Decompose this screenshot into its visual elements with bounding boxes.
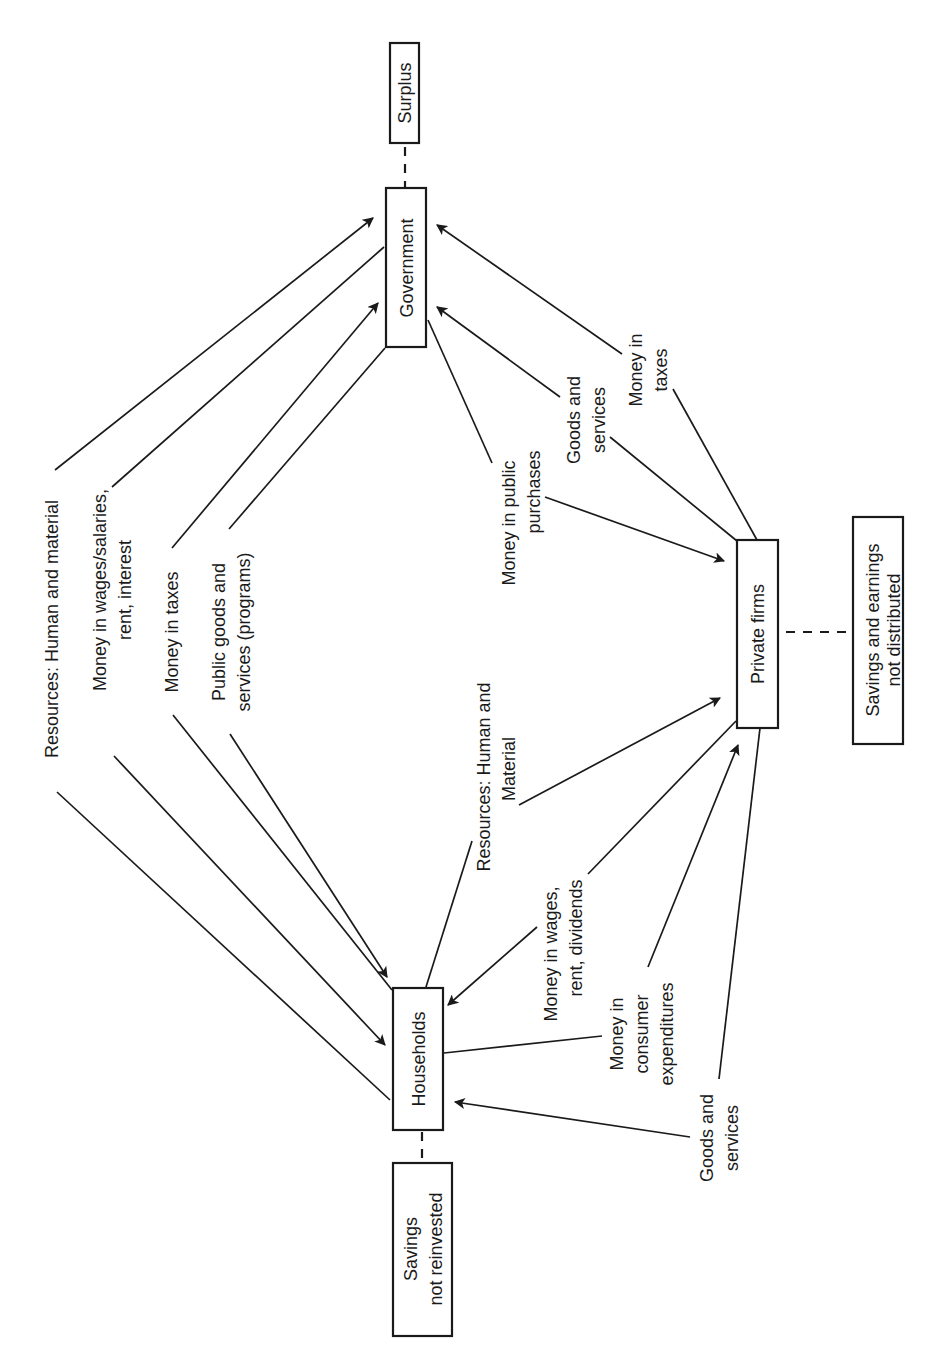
firm-taxes-label-line-1: Money in — [626, 333, 646, 406]
firm-taxes-lower-line — [673, 389, 757, 540]
firm-resources-label-line-1: Resources: Human and — [474, 682, 494, 871]
firm-wages-upper-line — [588, 721, 736, 874]
firm-taxes-label-line-2: taxes — [651, 348, 671, 391]
consumer-label-line-1: Money in — [607, 997, 627, 1070]
households-label: Households — [409, 1011, 429, 1106]
public-goods-label-line-2: services (programs) — [234, 552, 254, 711]
resources-arrow-to-government — [55, 218, 373, 470]
flow-gov-households-public-goods: Public goods and services (programs) — [209, 348, 387, 977]
public-goods-upper-line — [229, 348, 385, 529]
public-purchases-arrow-to-firms — [545, 497, 724, 561]
firm-wages-arrow-to-households — [448, 927, 537, 1005]
firm-wages-label-line-1: Money in wages, — [541, 886, 561, 1021]
private-firms-label: Private firms — [748, 584, 768, 684]
consumer-label-line-2: consumer — [632, 994, 652, 1073]
hh-goods-arrow-to-households — [455, 1102, 690, 1137]
taxes-arrow-to-government — [172, 303, 378, 548]
firm-resources-label-line-2: Material — [499, 737, 519, 801]
resources-human-material-label: Resources: Human and material — [42, 500, 62, 758]
firm-resources-lower-line — [426, 841, 472, 987]
savings-earnings-not-distributed-node: Savings and earnings not distributed — [853, 517, 904, 744]
resources-lower-line — [57, 792, 390, 1100]
savings-not-reinvested-label-line-1: Savings — [401, 1217, 421, 1281]
gov-goods-lower-line — [610, 437, 737, 541]
public-purchases-upper-line — [428, 320, 492, 463]
savings-earnings-label-line-2: not distributed — [884, 573, 904, 686]
circular-flow-diagram: Surplus Government Private firms Savings… — [0, 0, 939, 1371]
savings-earnings-label-line-1: Savings and earnings — [863, 543, 883, 716]
wages-salaries-label-line-2: rent, interest — [115, 540, 135, 640]
hh-goods-services-label-line-2: services — [722, 1105, 742, 1171]
firm-taxes-arrow-to-government — [437, 225, 622, 354]
consumer-label-line-3: expenditures — [657, 982, 677, 1085]
private-firms-node: Private firms — [737, 540, 778, 728]
firm-wages-label-line-2: rent, dividends — [566, 879, 586, 996]
wages-upper-line — [112, 247, 384, 487]
wages-arrow-to-households — [114, 756, 385, 1045]
public-purchases-label-line-2: purchases — [524, 450, 544, 533]
gov-goods-services-label-line-2: services — [589, 387, 609, 453]
wages-salaries-label-line-1: Money in wages/salaries, — [90, 489, 110, 691]
government-label: Government — [397, 218, 417, 317]
savings-not-reinvested-node: Savings not reinvested — [393, 1163, 452, 1336]
surplus-label: Surplus — [395, 62, 415, 123]
consumer-arrow-to-firms — [648, 745, 738, 967]
government-node: Government — [386, 188, 426, 347]
hh-goods-services-label-line-1: Goods and — [697, 1094, 717, 1182]
households-node: Households — [393, 988, 443, 1130]
firm-resources-arrow-to-firms — [519, 698, 720, 805]
hh-goods-upper-line — [719, 728, 760, 1079]
money-in-taxes-label: Money in taxes — [162, 571, 182, 692]
consumer-lower-line — [444, 1036, 602, 1053]
gov-goods-services-label-line-1: Goods and — [564, 376, 584, 464]
gov-goods-arrow-to-government — [437, 307, 560, 397]
flow-gov-households-taxes: Money in taxes — [162, 303, 392, 990]
public-goods-label-line-1: Public goods and — [209, 563, 229, 701]
savings-not-reinvested-label-line-2: not reinvested — [426, 1192, 446, 1305]
taxes-lower-line — [173, 715, 392, 990]
public-goods-arrow-to-households — [230, 734, 387, 977]
public-purchases-label-line-1: Money in public — [499, 460, 519, 585]
flow-gov-firms-taxes: Money in taxes — [437, 225, 757, 540]
surplus-node: Surplus — [390, 43, 419, 143]
